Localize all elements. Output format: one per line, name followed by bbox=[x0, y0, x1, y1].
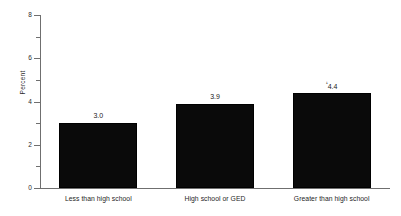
y-tick-label: 0 bbox=[2, 185, 32, 192]
category-label: High school or GED bbox=[155, 196, 275, 203]
bar-value-label: 3.9 bbox=[175, 93, 255, 100]
x-axis-line bbox=[40, 188, 390, 189]
bar bbox=[59, 123, 137, 188]
y-tick-label: 2 bbox=[2, 142, 32, 149]
y-tick-label: 8 bbox=[2, 12, 32, 19]
bar bbox=[176, 104, 254, 188]
footnote-marker: ¹ bbox=[326, 80, 328, 86]
category-label: Greater than high school bbox=[272, 196, 392, 203]
bar-value-label: ¹4.4 bbox=[292, 82, 372, 90]
y-tick-label: 6 bbox=[2, 55, 32, 62]
bar-value-label: 3.0 bbox=[58, 112, 138, 119]
category-label: Less than high school bbox=[38, 196, 158, 203]
plot-area bbox=[40, 15, 390, 188]
bar-chart: Percent 02468 3.03.9¹4.4 Less than high … bbox=[0, 0, 401, 216]
y-tick-label: 4 bbox=[2, 99, 32, 106]
bar bbox=[293, 93, 371, 188]
